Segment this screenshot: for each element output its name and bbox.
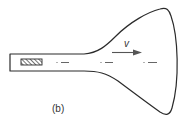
- figure-caption: (b): [52, 103, 64, 114]
- electron-gun-block: [21, 59, 42, 65]
- velocity-label: v: [124, 38, 130, 49]
- velocity-arrow: [112, 50, 142, 56]
- arrow-head-icon: [133, 50, 142, 56]
- beam-dot-3: [143, 62, 144, 63]
- beam-markers: [56, 62, 157, 63]
- crt-diagram: v (b): [0, 0, 185, 122]
- beam-dot-2: [100, 62, 101, 63]
- beam-dot-1: [56, 62, 57, 63]
